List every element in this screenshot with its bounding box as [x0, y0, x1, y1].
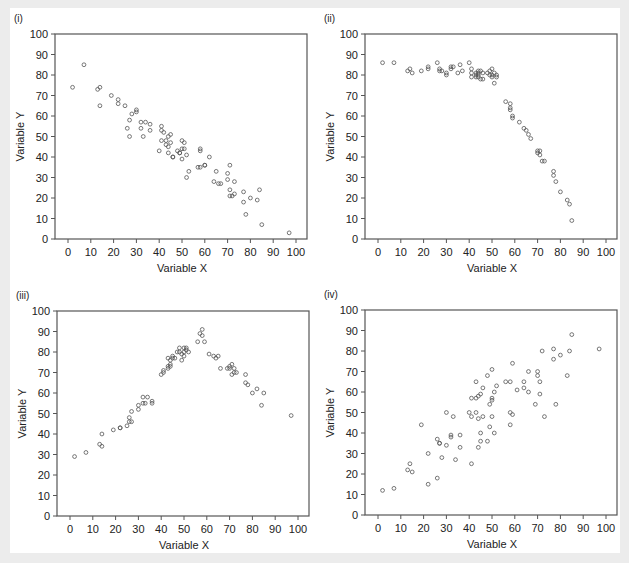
plot-frame	[365, 34, 617, 239]
y-tick-label: 30	[346, 172, 358, 184]
x-tick-label: 0	[65, 246, 71, 258]
plot-frame	[55, 34, 307, 239]
x-tick-label: 50	[176, 246, 188, 258]
y-tick-label: 40	[36, 151, 48, 163]
x-tick-label: 10	[85, 246, 97, 258]
x-tick-label: 90	[269, 523, 281, 535]
x-tick-label: 0	[67, 523, 73, 535]
y-tick-label: 10	[346, 489, 358, 501]
y-axis: 0102030405060708090100	[340, 304, 365, 521]
y-tick-label: 10	[38, 490, 50, 502]
y-tick-label: 60	[346, 386, 358, 398]
x-tick-label: 60	[201, 523, 213, 535]
y-tick-label: 30	[38, 449, 50, 461]
x-tick-label: 20	[417, 246, 429, 258]
x-tick-label: 60	[509, 522, 521, 534]
y-tick-label: 100	[340, 28, 358, 40]
x-tick-label: 70	[531, 246, 543, 258]
x-tick-label: 80	[554, 522, 566, 534]
x-tick-label: 80	[554, 246, 566, 258]
y-tick-label: 10	[346, 213, 358, 225]
x-tick-label: 90	[577, 246, 589, 258]
y-axis: 0102030405060708090100	[340, 28, 365, 245]
x-tick-label: 40	[463, 246, 475, 258]
x-axis-label: Variable X	[467, 262, 518, 274]
y-tick-label: 90	[346, 49, 358, 61]
x-tick-label: 30	[440, 522, 452, 534]
scatter-plot-i: (i)0102030405060708090100010203040506070…	[0, 0, 315, 278]
y-tick-label: 70	[346, 366, 358, 378]
y-tick-label: 0	[42, 233, 48, 245]
x-tick-label: 20	[109, 523, 121, 535]
y-tick-label: 80	[36, 69, 48, 81]
x-tick-label: 30	[132, 523, 144, 535]
y-axis-label: Variable Y	[324, 387, 336, 437]
x-tick-label: 0	[375, 522, 381, 534]
y-tick-label: 40	[346, 427, 358, 439]
plot-frame	[365, 310, 617, 515]
x-axis: 0102030405060708090100	[375, 239, 615, 258]
x-axis: 0102030405060708090100	[375, 515, 615, 534]
panel-label: (iv)	[324, 289, 338, 300]
x-tick-label: 100	[287, 246, 305, 258]
x-tick-label: 70	[221, 246, 233, 258]
x-tick-label: 50	[486, 522, 498, 534]
y-tick-label: 0	[44, 510, 50, 522]
x-axis: 0102030405060708090100	[65, 239, 305, 258]
x-tick-label: 70	[223, 523, 235, 535]
x-tick-label: 0	[375, 246, 381, 258]
y-tick-label: 100	[340, 304, 358, 316]
y-tick-label: 10	[36, 213, 48, 225]
y-tick-label: 20	[346, 192, 358, 204]
y-tick-label: 70	[38, 367, 50, 379]
x-tick-label: 10	[395, 522, 407, 534]
x-axis-label: Variable X	[467, 538, 518, 550]
scatter-plot-iv: (iv)010203040506070809010001020304050607…	[310, 276, 625, 554]
x-axis-label: Variable X	[157, 262, 208, 274]
y-axis-label: Variable Y	[14, 111, 26, 161]
y-tick-label: 80	[346, 69, 358, 81]
x-tick-label: 80	[246, 523, 258, 535]
y-tick-label: 80	[346, 345, 358, 357]
y-axis-label: Variable Y	[16, 388, 28, 438]
y-tick-label: 90	[38, 326, 50, 338]
panel-label: (ii)	[324, 13, 335, 24]
y-tick-label: 50	[36, 131, 48, 143]
y-tick-label: 90	[346, 325, 358, 337]
y-axis-label: Variable Y	[324, 111, 336, 161]
x-tick-label: 20	[417, 522, 429, 534]
y-tick-label: 30	[36, 172, 48, 184]
y-tick-label: 60	[38, 387, 50, 399]
x-tick-label: 40	[155, 523, 167, 535]
panel-label: (i)	[14, 13, 23, 24]
y-tick-label: 50	[346, 131, 358, 143]
x-tick-label: 70	[531, 522, 543, 534]
x-tick-label: 100	[289, 523, 307, 535]
scatter-plot-ii: (ii)010203040506070809010001020304050607…	[310, 0, 625, 278]
x-axis-label: Variable X	[159, 539, 210, 551]
x-tick-label: 60	[199, 246, 211, 258]
y-tick-label: 50	[346, 407, 358, 419]
x-axis: 0102030405060708090100	[67, 516, 307, 535]
x-tick-label: 80	[244, 246, 256, 258]
y-tick-label: 50	[38, 408, 50, 420]
x-tick-label: 90	[267, 246, 279, 258]
x-tick-label: 40	[153, 246, 165, 258]
y-tick-label: 80	[38, 346, 50, 358]
y-tick-label: 0	[352, 233, 358, 245]
x-tick-label: 10	[395, 246, 407, 258]
y-axis: 0102030405060708090100	[32, 305, 57, 522]
y-tick-label: 40	[38, 428, 50, 440]
y-tick-label: 60	[346, 110, 358, 122]
y-tick-label: 70	[346, 90, 358, 102]
y-tick-label: 40	[346, 151, 358, 163]
y-tick-label: 20	[36, 192, 48, 204]
x-tick-label: 10	[87, 523, 99, 535]
y-tick-label: 20	[38, 469, 50, 481]
x-tick-label: 100	[597, 246, 615, 258]
y-tick-label: 100	[32, 305, 50, 317]
x-tick-label: 30	[130, 246, 142, 258]
x-tick-label: 20	[107, 246, 119, 258]
x-tick-label: 50	[178, 523, 190, 535]
x-tick-label: 40	[463, 522, 475, 534]
